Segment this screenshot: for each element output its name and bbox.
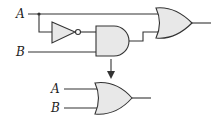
wire-a-branch — [39, 14, 52, 32]
logic-diagram: A B A B — [0, 0, 221, 123]
arrow-down-icon — [107, 71, 115, 79]
input-label-a-bottom: A — [50, 82, 60, 96]
input-label-b-bottom: B — [50, 101, 60, 115]
input-label-a-top: A — [15, 7, 25, 21]
or-gate-bottom — [95, 83, 132, 115]
inverter-bubble — [76, 30, 81, 35]
not-gate — [52, 22, 75, 43]
or-gate-top — [156, 8, 192, 38]
input-label-b-top: B — [15, 45, 25, 59]
and-gate — [96, 26, 129, 56]
